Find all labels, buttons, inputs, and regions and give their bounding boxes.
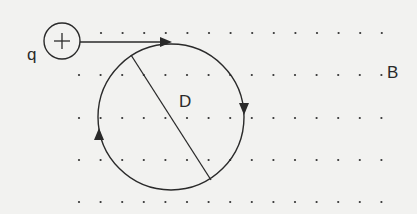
- diagram-graphics: [0, 0, 417, 214]
- magnetic-field-dots: [78, 32, 383, 203]
- arrowhead-icon: [160, 37, 172, 47]
- field-label: B: [387, 64, 398, 81]
- diagram: q D B: [0, 0, 417, 214]
- diameter-label: D: [179, 93, 191, 110]
- arrowhead-down-icon: [239, 103, 249, 115]
- charge-label: q: [27, 46, 36, 63]
- arrowhead-up-icon: [94, 128, 104, 140]
